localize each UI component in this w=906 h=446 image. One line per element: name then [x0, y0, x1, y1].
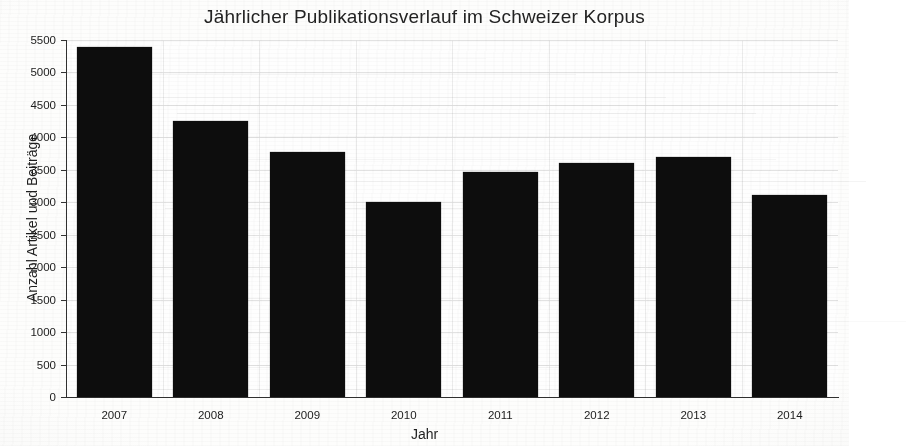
x-tick-label-2011: 2011 [488, 409, 513, 421]
y-tick-mark [61, 72, 66, 73]
x-tick-label-2008: 2008 [198, 409, 224, 421]
y-tick-mark [61, 300, 66, 301]
y-tick-mark [61, 105, 66, 106]
y-tick-mark [61, 235, 66, 236]
x-axis-title: Jahr [0, 426, 849, 442]
y-tick-mark [61, 170, 66, 171]
y-axis-title: Anzahl Artikel und Beiträge [24, 68, 40, 368]
y-tick-mark [61, 40, 66, 41]
x-tick-label-2007: 2007 [101, 409, 127, 421]
y-tick-mark [61, 137, 66, 138]
y-tick-label: 5500 [8, 34, 56, 46]
x-tick-label-2014: 2014 [777, 409, 803, 421]
y-tick-mark [61, 202, 66, 203]
y-tick-mark [61, 332, 66, 333]
chart-title: Jährlicher Publikationsverlauf im Schwei… [0, 6, 849, 28]
y-tick-mark [61, 365, 66, 366]
x-tick-label-2013: 2013 [680, 409, 706, 421]
y-tick-label: 0 [8, 391, 56, 403]
y-tick-mark [61, 397, 66, 398]
x-tick-label-2012: 2012 [584, 409, 610, 421]
x-tick-label-2009: 2009 [294, 409, 320, 421]
y-tick-mark [61, 267, 66, 268]
x-tick-label-2010: 2010 [391, 409, 417, 421]
